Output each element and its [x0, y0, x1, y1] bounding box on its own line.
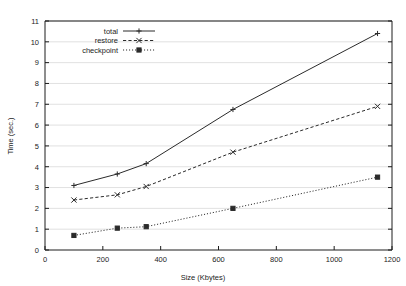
- y-tick-label: 6: [35, 121, 39, 130]
- y-tick-label: 11: [31, 17, 39, 26]
- chart-background: [0, 0, 406, 286]
- x-tick-label: 800: [270, 255, 283, 264]
- line-chart-plot: 020040060080010001200 01234567891011 tot…: [0, 0, 406, 286]
- legend-label-restore: restore: [95, 36, 118, 45]
- x-tick-label: 600: [212, 255, 225, 264]
- legend-label-checkpoint: checkpoint: [82, 46, 119, 55]
- x-axis-label: Size (Kbytes): [181, 273, 226, 282]
- y-tick-label: 9: [35, 58, 39, 67]
- legend-label-total: total: [104, 27, 119, 36]
- x-tick-label: 400: [154, 255, 167, 264]
- data-point-checkpoint: [115, 226, 119, 230]
- data-point-checkpoint: [144, 225, 148, 229]
- chart-figure: 020040060080010001200 01234567891011 tot…: [0, 0, 406, 286]
- x-tick-label: 200: [97, 255, 110, 264]
- legend-marker-checkpoint: [137, 48, 141, 52]
- data-point-checkpoint: [375, 175, 379, 179]
- y-tick-label: 5: [35, 142, 39, 151]
- y-tick-label: 8: [35, 79, 39, 88]
- x-tick-label: 1000: [326, 255, 343, 264]
- data-point-checkpoint: [231, 206, 235, 210]
- x-tick-label: 0: [43, 255, 47, 264]
- data-point-checkpoint: [72, 233, 76, 237]
- x-tick-label: 1200: [384, 255, 401, 264]
- y-tick-label: 3: [35, 183, 39, 192]
- y-axis-label: Time (sec.): [6, 117, 15, 155]
- y-tick-label: 1: [35, 225, 39, 234]
- y-tick-label: 0: [35, 246, 39, 255]
- y-tick-label: 7: [35, 100, 39, 109]
- y-tick-label: 2: [35, 204, 39, 213]
- y-tick-label: 4: [35, 163, 39, 172]
- y-tick-label: 10: [31, 38, 39, 47]
